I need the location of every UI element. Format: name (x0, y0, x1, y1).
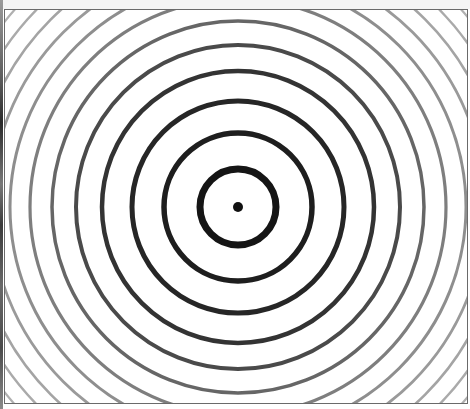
figure-frame (4, 9, 468, 404)
center-dot (233, 202, 243, 212)
page-gutter-shadow (0, 0, 3, 409)
concentric-rings-image (5, 10, 467, 403)
page-top-margin (0, 0, 470, 9)
